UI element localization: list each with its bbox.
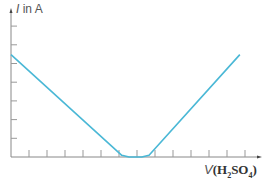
x-axis-arrow-icon	[257, 156, 262, 159]
y-axis-variable: I	[16, 2, 19, 16]
titration-chart	[0, 0, 268, 182]
y-ticks	[11, 26, 17, 138]
x-axis-label: V(H2SO4)	[204, 162, 257, 180]
x-axis-variable: V	[204, 162, 213, 177]
y-axis-arrow-icon	[10, 8, 13, 13]
y-axis-label: I in A	[16, 2, 43, 16]
y-axis-unit: in A	[23, 2, 43, 16]
data-line	[11, 55, 240, 157]
x-ticks	[29, 150, 245, 157]
